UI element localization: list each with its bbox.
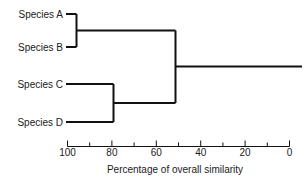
leaf-label-species-c: Species C (17, 79, 63, 90)
x-axis-tick-label-20: 20 (240, 147, 252, 158)
leaf-label-species-b: Species B (18, 42, 63, 53)
x-axis-tick-label-60: 60 (151, 147, 163, 158)
x-axis-tick-label-80: 80 (106, 147, 118, 158)
x-axis-tick-label-100: 100 (59, 147, 76, 158)
leaf-label-species-a: Species A (19, 9, 64, 20)
x-axis-title: Percentage of overall similarity (107, 164, 243, 175)
x-axis-tick-label-40: 40 (195, 147, 207, 158)
x-axis-tick-label-0: 0 (287, 147, 293, 158)
dendrogram-figure: Species A Species B Species C Species D (0, 0, 306, 183)
dendrogram-plot: Species A Species B Species C Species D (0, 0, 306, 183)
leaf-label-species-d: Species D (17, 117, 63, 128)
